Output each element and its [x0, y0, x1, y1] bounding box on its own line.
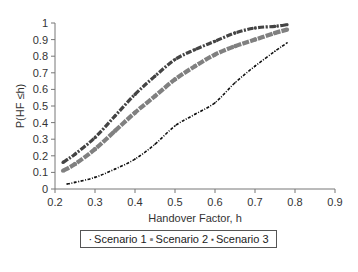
data-point: [73, 162, 77, 166]
y-tick-label: 0.4: [33, 117, 48, 129]
x-tick-label: 0.8: [287, 196, 302, 208]
data-point: [253, 26, 256, 29]
x-tick-label: 0.7: [247, 196, 262, 208]
data-point: [61, 161, 64, 164]
data-point: [254, 65, 256, 67]
y-tick-label: 0.5: [33, 100, 48, 112]
y-tick-label: 0.3: [33, 133, 48, 145]
data-point: [214, 102, 216, 104]
data-point: [213, 52, 217, 56]
data-point: [194, 114, 196, 116]
y-axis-title: P(HF ≤h): [14, 84, 26, 129]
legend-item-scenario-1: · Scenario 1: [88, 233, 146, 245]
data-point: [274, 50, 276, 52]
series-scenario-2: [61, 28, 289, 173]
data-point: [73, 153, 76, 156]
series-scenario-1: [66, 42, 288, 185]
data-point: [234, 82, 236, 84]
y-tick-label: 0.8: [33, 50, 48, 62]
data-point: [61, 169, 65, 173]
y-tick-label: 0.9: [33, 34, 48, 46]
y-tick-label: 0.7: [33, 67, 48, 79]
legend-label: Scenario 2: [156, 233, 209, 245]
x-tick-label: 0.5: [167, 196, 182, 208]
data-point: [173, 58, 176, 61]
scenario-3-marker-icon: ▪: [211, 235, 214, 244]
data-point: [153, 75, 156, 78]
series-layer: [61, 23, 289, 185]
data-point: [93, 136, 96, 139]
data-point: [193, 64, 197, 68]
series-scenario-3: [61, 23, 288, 164]
data-point: [133, 93, 136, 96]
data-point: [273, 25, 276, 28]
data-point: [253, 38, 257, 42]
data-point: [153, 94, 157, 98]
data-point: [74, 182, 76, 184]
data-point: [286, 42, 288, 44]
data-point: [113, 114, 116, 117]
data-point: [233, 44, 237, 48]
data-point: [154, 143, 156, 145]
data-point: [134, 158, 136, 160]
y-tick-label: 0: [42, 183, 48, 195]
axes: 00.10.20.30.40.50.60.70.80.910.20.30.40.…: [33, 17, 343, 208]
series-line: [67, 43, 287, 184]
data-point: [233, 31, 236, 34]
x-tick-label: 0.6: [207, 196, 222, 208]
legend-label: Scenario 1: [94, 233, 147, 245]
series-line: [63, 25, 287, 163]
data-point: [133, 111, 137, 115]
data-point: [213, 40, 216, 43]
data-point: [174, 125, 176, 127]
data-point: [273, 31, 277, 35]
data-point: [93, 147, 97, 151]
y-tick-label: 0.1: [33, 166, 48, 178]
data-point: [94, 177, 96, 179]
x-tick-label: 0.2: [47, 196, 62, 208]
x-axis-title: Handover Factor, h: [148, 212, 242, 224]
legend-item-scenario-3: ▪ Scenario 3: [211, 233, 268, 245]
data-point: [66, 183, 68, 185]
data-point: [285, 23, 288, 26]
y-tick-label: 0.2: [33, 150, 48, 162]
y-tick-label: 0.6: [33, 83, 48, 95]
data-point: [285, 28, 289, 32]
x-tick-label: 0.3: [87, 196, 102, 208]
legend-item-scenario-2: ▪ Scenario 2: [150, 233, 209, 245]
x-tick-label: 0.9: [327, 196, 342, 208]
legend: · Scenario 1 ▪ Scenario 2 ▪ Scenario 3: [80, 230, 277, 248]
data-point: [193, 48, 196, 51]
scenario-1-marker-icon: ·: [88, 233, 92, 245]
data-point: [173, 77, 177, 81]
scenario-2-marker-icon: ▪: [150, 233, 154, 245]
data-point: [113, 129, 117, 133]
x-tick-label: 0.4: [127, 196, 142, 208]
legend-label: Scenario 3: [216, 233, 269, 245]
y-tick-label: 1: [42, 17, 48, 29]
data-point: [114, 168, 116, 170]
